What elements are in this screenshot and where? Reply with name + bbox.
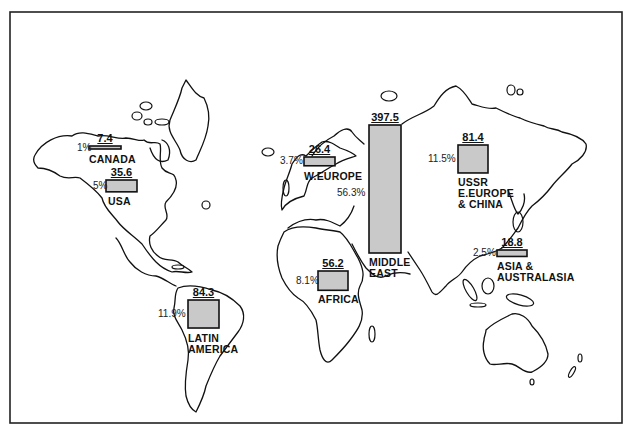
island-arctic-2	[140, 102, 152, 110]
island-arctic-3	[144, 119, 152, 125]
island-arctic-1	[132, 112, 142, 120]
island-nz-south	[567, 366, 576, 378]
region-name-line: EAST	[369, 268, 410, 279]
island-java	[470, 303, 486, 307]
coast-australia	[483, 314, 548, 373]
region-name-line: AFRICA	[318, 294, 359, 305]
percent-label-asia: 2.5%	[473, 247, 496, 258]
bar-asia	[497, 250, 527, 256]
value-label-middle-east: 397.5	[371, 111, 399, 123]
value-label-ussr: 81.4	[462, 131, 483, 143]
island-madagascar	[369, 326, 375, 342]
island-nz-north	[578, 354, 582, 362]
value-label-africa: 56.2	[322, 257, 343, 269]
region-name-line: W.EUROPE	[304, 171, 362, 182]
percent-label-w-europe: 3.7%	[280, 155, 303, 166]
percent-label-middle-east: 56.3%	[337, 187, 365, 198]
coast-florida-mexico	[116, 238, 176, 286]
value-label-w-europe: 26.4	[309, 143, 330, 155]
region-name-w-europe: W.EUROPE	[304, 171, 362, 182]
percent-label-latin-america: 11.9%	[158, 308, 186, 319]
island-novaya-zemlya	[381, 91, 397, 101]
island-borneo	[482, 278, 494, 294]
island-cuba	[172, 265, 184, 269]
island-new-guinea	[505, 292, 535, 309]
bar-ussr	[458, 145, 488, 173]
region-name-africa: AFRICA	[318, 294, 359, 305]
percent-label-ussr: 11.5%	[428, 153, 456, 164]
region-name-line: AUSTRALASIA	[497, 272, 574, 283]
island-tasmania	[530, 379, 534, 385]
region-name-asia: ASIA &AUSTRALASIA	[497, 261, 574, 283]
island-severnaya	[507, 85, 515, 95]
island-arctic-4	[155, 119, 169, 125]
map-frame	[10, 12, 622, 423]
bar-middle-east	[369, 125, 401, 253]
bar-latin-america	[188, 300, 219, 328]
island-arctic-east	[517, 89, 523, 95]
bar-usa	[106, 180, 137, 192]
region-name-line: USA	[108, 196, 131, 207]
island-newfoundland	[202, 201, 210, 209]
percent-label-africa: 8.1%	[296, 275, 319, 286]
percent-label-usa: 5%	[93, 180, 107, 191]
island-iceland	[262, 148, 274, 156]
bar-w-europe	[304, 157, 335, 166]
percent-label-canada: 1%	[77, 142, 91, 153]
region-name-ussr: USSRE.EUROPE& CHINA	[458, 177, 514, 210]
region-name-latin-america: LATINAMERICA	[188, 333, 238, 355]
bar-africa	[318, 271, 348, 290]
value-label-latin-america: 84.3	[193, 286, 214, 298]
coast-greenland	[169, 80, 209, 162]
world-map	[0, 0, 634, 438]
region-name-middle-east: MIDDLEEAST	[369, 257, 410, 279]
region-name-line: AMERICA	[188, 344, 238, 355]
bar-canada	[89, 146, 121, 149]
value-label-asia: 18.8	[501, 236, 522, 248]
island-sumatra	[461, 278, 480, 303]
value-label-canada: 7.4	[97, 132, 112, 144]
region-name-line: & CHINA	[458, 199, 514, 210]
coast-mediterranean	[288, 206, 354, 228]
region-name-usa: USA	[108, 196, 131, 207]
region-name-canada: CANADA	[89, 154, 136, 165]
region-name-line: CANADA	[89, 154, 136, 165]
value-label-usa: 35.6	[111, 166, 132, 178]
